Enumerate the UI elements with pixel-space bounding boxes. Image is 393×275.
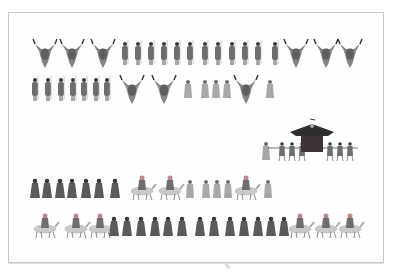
figure-official [225,217,235,236]
figure-official [253,217,263,236]
figure-rider [131,176,156,201]
figure-official [150,217,160,236]
figure-ox [234,75,258,104]
figure-standard [45,76,51,101]
figure-attendant [201,80,209,98]
procession-scroll-image [0,0,393,275]
figure-official [30,179,40,198]
figure-official [163,217,173,236]
row-5-riders [34,214,364,239]
row-3-palanquin [262,119,358,161]
figure-standard [93,76,99,101]
figure-standard [104,76,110,101]
figure-attendant [223,80,231,98]
figure-official [177,217,187,236]
figure-rider [289,214,314,239]
figure-official [94,179,104,198]
row-2-banners [32,75,274,104]
figure-attendant [184,80,192,98]
figure-ox [284,39,308,68]
figure-ox [338,39,362,68]
figure-standard [148,40,154,65]
figure-official [55,179,65,198]
figure-bearer [279,142,285,161]
figure-official [239,217,249,236]
figure-attendant [213,180,221,198]
row-4-officials [30,176,272,201]
figure-rider [34,214,59,239]
figure-attendant [224,180,232,198]
figure-attendant [266,80,274,98]
figure-official [110,179,120,198]
figure-standard [32,76,38,101]
figure-bearer [337,142,343,161]
figure-bearer [289,142,295,161]
figure-standard [161,40,167,65]
figure-standard [272,40,278,65]
figure-ox [91,39,115,68]
figure-standard [70,76,76,101]
figure-attendant [212,80,220,98]
figure-bearer [347,142,353,161]
figure-standard [187,40,193,65]
figure-standard [242,40,248,65]
figure-rider [315,214,340,239]
figure-attendant [186,180,194,198]
figure-rider [65,214,90,239]
row-1-banners [33,39,362,68]
figure-standard [122,40,128,65]
figure-official [122,217,132,236]
figure-official [109,217,119,236]
figure-bearer [327,142,333,161]
figure-standard [202,40,208,65]
figure-attendant [262,142,270,160]
figure-ox [33,39,57,68]
figure-official [279,217,289,236]
figure-rider [235,176,260,201]
figure-standard [81,76,87,101]
figure-attendant [264,180,272,198]
figure-standard [255,40,261,65]
figure-official [136,217,146,236]
figure-official [195,217,205,236]
figure-official [42,179,52,198]
figure-standard [229,40,235,65]
figure-standard [174,40,180,65]
figure-ox [314,39,338,68]
figure-rider [159,176,184,201]
figure-standard [135,40,141,65]
figure-standard [215,40,221,65]
figure-official [81,179,91,198]
figure-ox [60,39,84,68]
figure-rider [339,214,364,239]
figure-official [266,217,276,236]
figure-official [67,179,77,198]
figure-attendant [202,180,210,198]
figure-ox [120,75,144,104]
figure-standard [58,76,64,101]
figure-ox [152,75,176,104]
figure-official [209,217,219,236]
